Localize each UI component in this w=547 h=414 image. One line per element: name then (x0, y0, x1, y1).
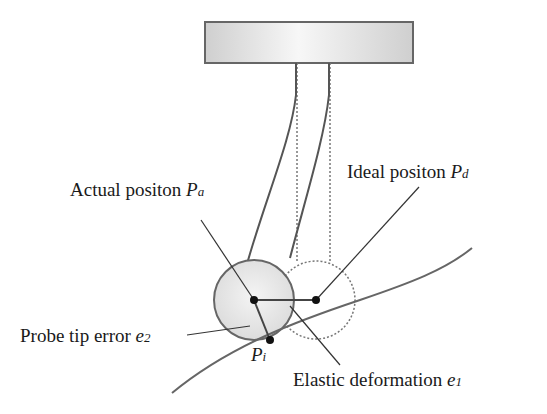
label-contact-point: Pi (251, 345, 266, 364)
label-ideal-position: Ideal positon Pd (347, 162, 469, 181)
actual-stylus (247, 63, 329, 264)
label-text: Actual positon (70, 179, 186, 200)
label-elastic-deformation: Elastic deformation e1 (293, 370, 462, 389)
label-symbol: P (186, 179, 198, 200)
label-subscript: i (263, 349, 267, 364)
label-symbol: e (447, 369, 455, 390)
label-subscript: d (462, 166, 469, 181)
label-text: Elastic deformation (293, 369, 447, 390)
label-probe-tip-error: Probe tip error e2 (20, 326, 151, 345)
label-text: Probe tip error (20, 325, 136, 346)
label-actual-position: Actual positon Pa (70, 180, 204, 199)
probe-holder (205, 22, 413, 63)
label-subscript: a (198, 184, 205, 199)
label-subscript: 1 (456, 374, 463, 389)
diagram-svg (0, 0, 547, 414)
label-subscript: 2 (144, 330, 151, 345)
diagram-canvas: Actual positon Pa Ideal positon Pd Probe… (0, 0, 547, 414)
label-symbol: P (450, 161, 462, 182)
label-text: Ideal positon (347, 161, 450, 182)
label-symbol: e (136, 325, 144, 346)
label-symbol: P (251, 344, 263, 365)
